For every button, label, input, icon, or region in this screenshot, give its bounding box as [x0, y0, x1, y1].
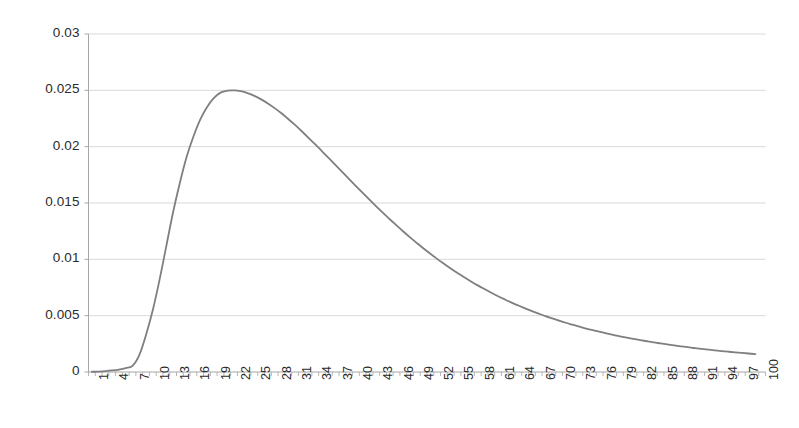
x-tick-label: 43	[381, 366, 395, 380]
x-tick-label: 25	[259, 366, 273, 380]
x-tick-label: 91	[706, 366, 720, 380]
x-tick-label: 85	[666, 366, 680, 380]
y-tick-label: 0.02	[53, 138, 80, 153]
x-tick-label: 22	[239, 366, 253, 380]
x-tick-label: 70	[564, 366, 578, 380]
y-tick-label: 0.025	[45, 81, 79, 96]
x-tick-label: 49	[422, 366, 436, 380]
x-tick-label: 19	[219, 366, 233, 380]
x-tick-label: 10	[158, 366, 172, 380]
y-tick-label: 0	[72, 363, 80, 378]
x-tick-label: 55	[462, 366, 476, 380]
x-tick-label: 34	[320, 366, 334, 380]
x-tick-label: 28	[280, 366, 294, 380]
x-axis-minor-ticks	[85, 34, 766, 376]
line-chart: 00.0050.010.0150.020.0250.03 14710131619…	[0, 0, 799, 428]
plot-area	[0, 0, 799, 428]
x-tick-label: 40	[361, 366, 375, 380]
x-tick-label: 94	[726, 366, 740, 380]
x-tick-label: 82	[645, 366, 659, 380]
y-tick-label: 0.005	[45, 307, 79, 322]
x-tick-label: 76	[605, 366, 619, 380]
x-tick-label: 13	[178, 366, 192, 380]
x-tick-label: 52	[442, 366, 456, 380]
x-tick-label: 16	[198, 366, 212, 380]
x-tick-label: 1	[97, 373, 111, 380]
gridlines-group	[89, 34, 766, 316]
y-tick-label: 0.01	[53, 250, 80, 265]
x-tick-label: 73	[584, 366, 598, 380]
x-tick-label: 97	[747, 366, 761, 380]
x-tick-label: 88	[686, 366, 700, 380]
x-tick-label: 79	[625, 366, 639, 380]
x-tick-label: 67	[544, 366, 558, 380]
y-tick-label: 0.03	[53, 25, 80, 40]
x-tick-label: 61	[503, 366, 517, 380]
x-tick-label: 58	[483, 366, 497, 380]
x-tick-label: 4	[117, 373, 131, 380]
x-tick-label: 37	[341, 366, 355, 380]
data-series-line	[92, 90, 755, 371]
x-tick-label: 64	[523, 366, 537, 380]
x-tick-label: 100	[767, 359, 781, 380]
x-tick-label: 46	[402, 366, 416, 380]
x-tick-label: 7	[138, 373, 152, 380]
x-tick-label: 31	[300, 366, 314, 380]
y-tick-label: 0.015	[45, 194, 79, 209]
